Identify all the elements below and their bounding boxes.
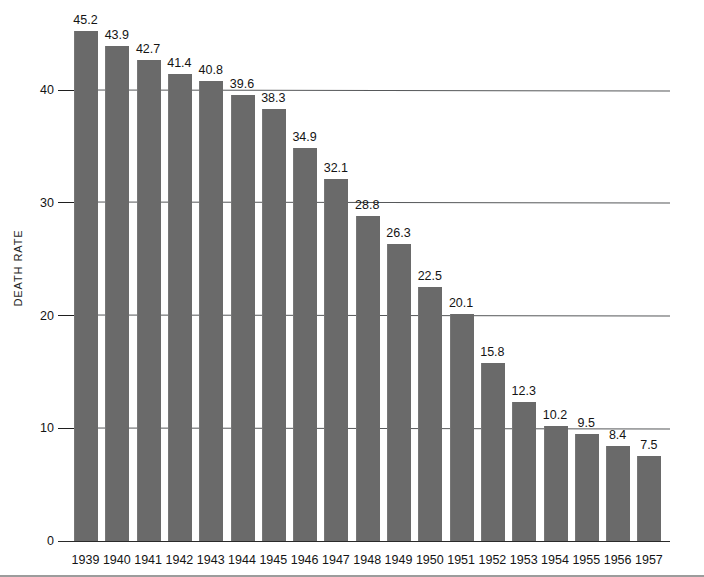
bar [231, 95, 255, 541]
gridline-40 [74, 89, 670, 91]
y-tick-label: 20 [26, 310, 54, 323]
x-tick-label: 1957 [627, 554, 671, 567]
bar [293, 148, 317, 541]
bar [137, 60, 161, 541]
y-tick-label: 30 [26, 197, 54, 210]
bar [418, 287, 442, 541]
bar [324, 179, 348, 541]
bar-value-label: 20.1 [439, 297, 483, 310]
x-axis-line [58, 541, 670, 542]
bar-value-label: 39.6 [220, 78, 264, 91]
bar [356, 216, 380, 541]
bar [199, 81, 223, 541]
bar-value-label: 9.5 [564, 417, 608, 430]
bar-value-label: 28.8 [345, 199, 389, 212]
bar-value-label: 7.5 [627, 439, 671, 452]
bar [606, 446, 630, 541]
bar [637, 456, 661, 541]
y-tick-label: 0 [26, 535, 54, 548]
bar-value-label: 45.2 [64, 14, 108, 27]
bar-value-label: 43.9 [95, 29, 139, 42]
bar-value-label: 38.3 [251, 92, 295, 105]
bar [544, 426, 568, 541]
y-tick-label: 10 [26, 422, 54, 435]
bar-value-label: 15.8 [470, 346, 514, 359]
bar-value-label: 26.3 [377, 227, 421, 240]
bar-value-label: 12.3 [502, 385, 546, 398]
y-tick-label: 40 [26, 84, 54, 97]
bar [512, 402, 536, 541]
chart-figure: DEATH RATE 01020304045.2193943.9194042.7… [0, 0, 704, 577]
bar-value-label: 34.9 [283, 131, 327, 144]
bar [262, 109, 286, 541]
bar [74, 31, 98, 541]
bar [168, 74, 192, 541]
bar [105, 46, 129, 541]
bar [575, 434, 599, 541]
bar-value-label: 42.7 [126, 43, 170, 56]
bar-value-label: 40.8 [189, 64, 233, 77]
plot-area: 01020304045.2193943.9194042.7194141.4194… [0, 0, 704, 577]
bar [387, 244, 411, 541]
bar-value-label: 22.5 [408, 270, 452, 283]
bar-value-label: 32.1 [314, 162, 358, 175]
